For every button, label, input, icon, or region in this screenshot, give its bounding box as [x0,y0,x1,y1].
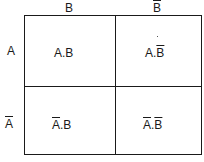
column-header-not-b: B [153,2,161,14]
cell-a-b: A.B [54,47,73,59]
row-header-not-a: A [5,118,13,130]
cell-not-a-b: A.B [52,119,71,131]
stray-mark [157,36,158,37]
grid-divider-vertical [115,16,116,154]
map-grid [24,15,202,155]
column-header-b: B [65,2,73,14]
cell-not-a-not-b: A.B [143,119,162,131]
grid-divider-horizontal [25,86,201,87]
cell-a-not-b: A.B [145,47,164,59]
row-header-a: A [7,45,15,57]
